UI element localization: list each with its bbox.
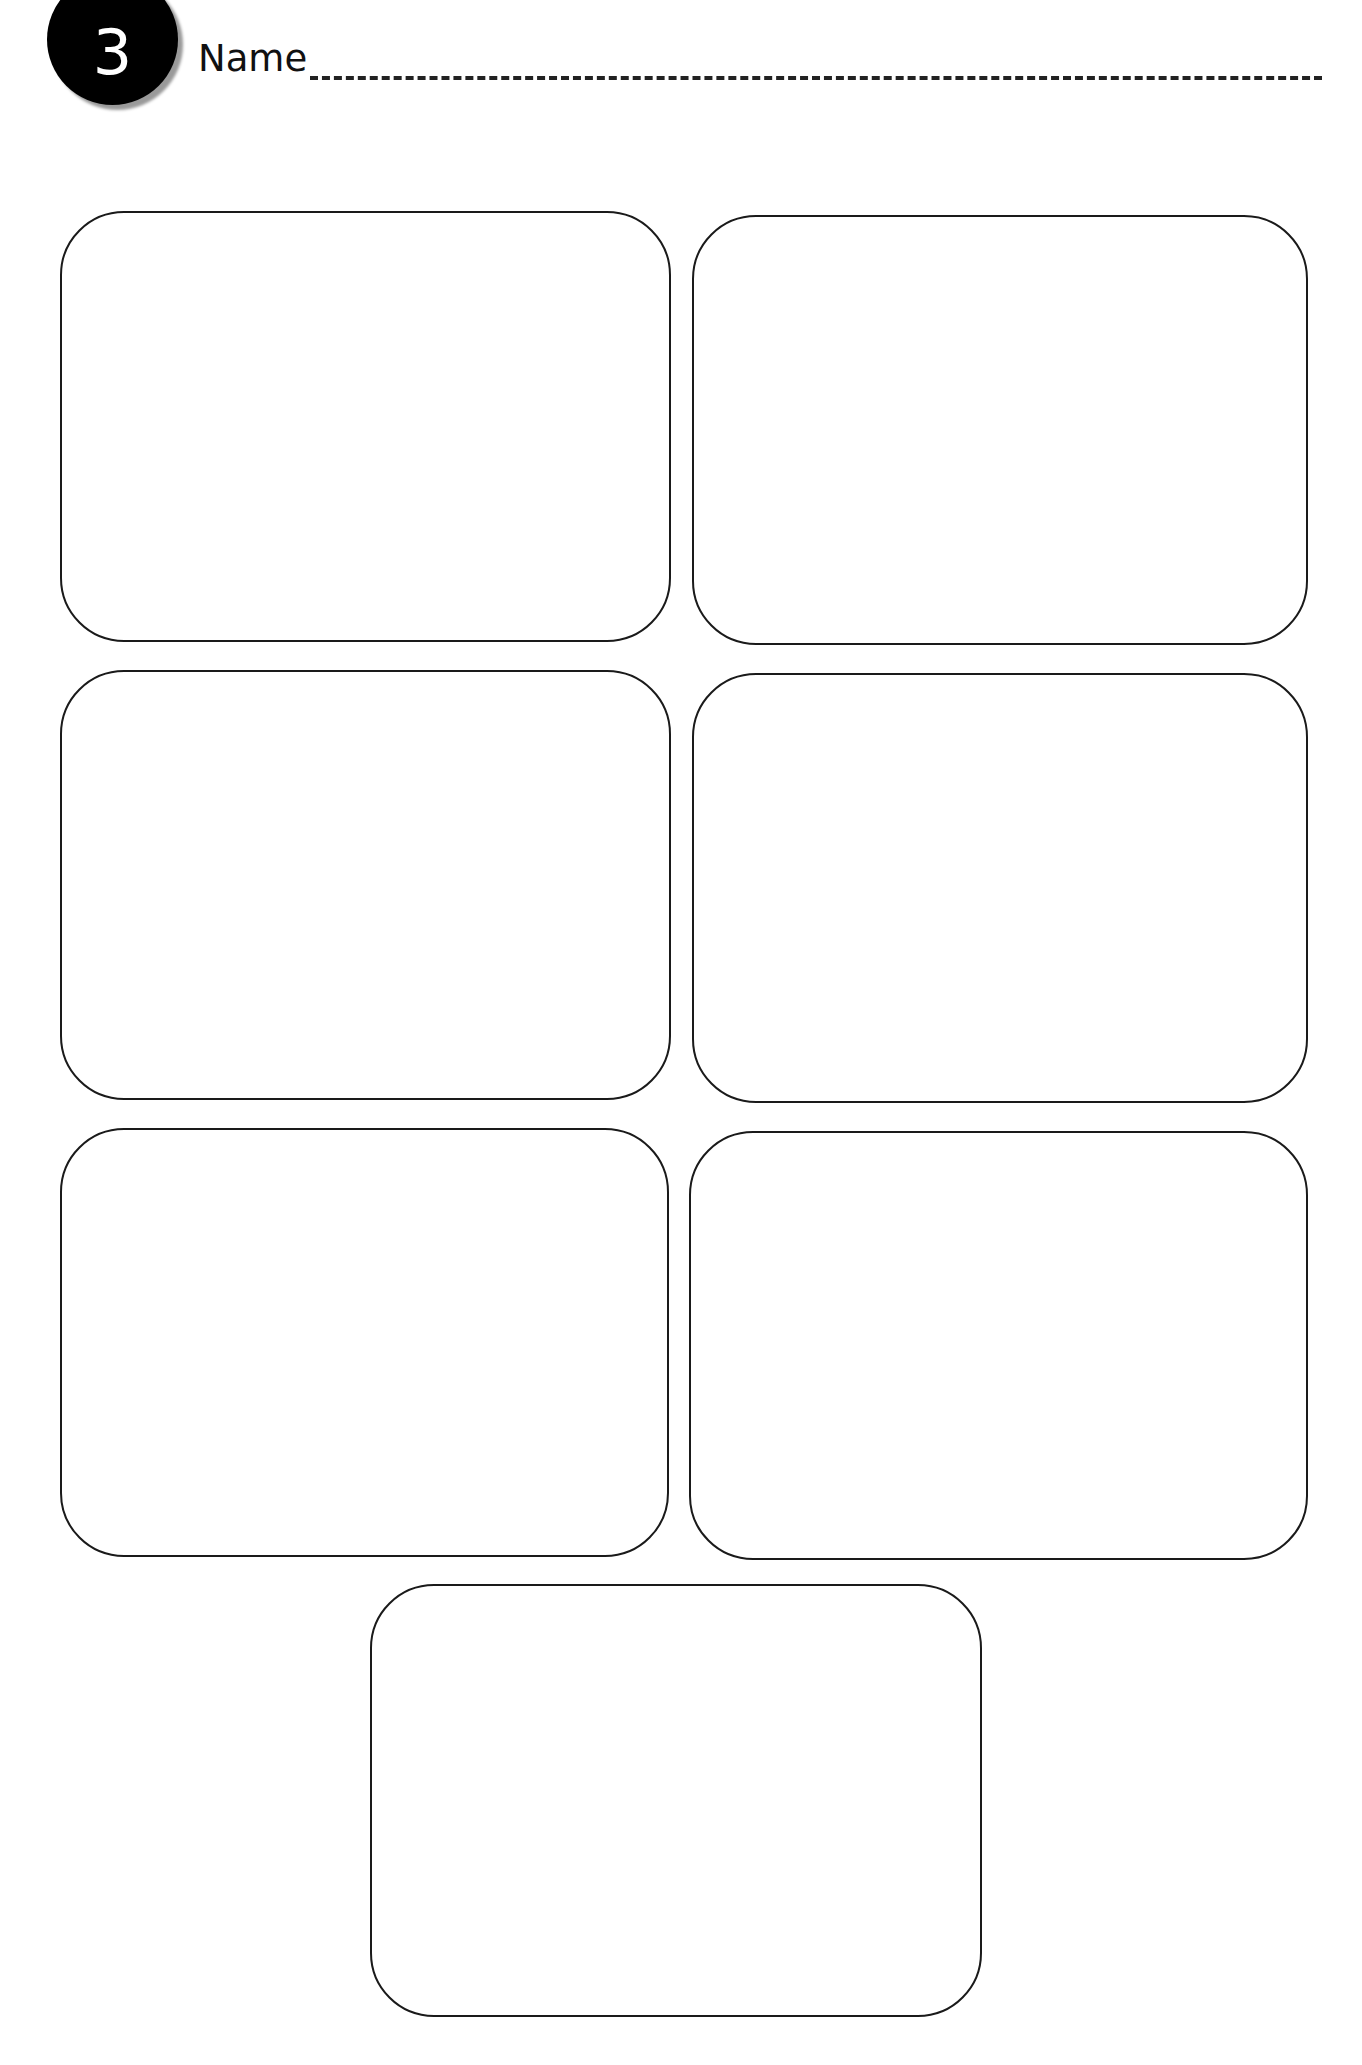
badge-number: 3 [93,22,132,84]
blank-card-6 [689,1131,1308,1560]
blank-card-4 [692,673,1308,1103]
name-input-line[interactable] [310,76,1322,80]
blank-card-5 [60,1128,669,1557]
number-badge: 3 [47,0,178,105]
name-label: Name [198,40,307,77]
blank-card-3 [60,670,671,1100]
blank-card-2 [692,215,1308,645]
blank-card-1 [60,211,671,642]
blank-card-7 [370,1584,982,2017]
